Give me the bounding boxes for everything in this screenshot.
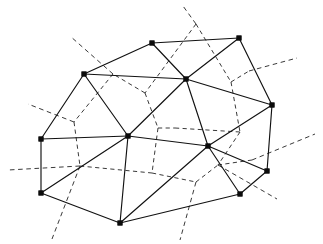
site-point: upper-left xyxy=(82,72,87,77)
delaunay-voronoi-diagram: top-left-uppertop-rightupper-leftupper-c… xyxy=(0,0,323,244)
site-point: center-hub xyxy=(126,134,131,139)
site-point: bottom-center xyxy=(118,221,123,226)
site-point: left-middle xyxy=(39,137,44,142)
site-point: right-upper xyxy=(270,103,275,108)
diagram-background xyxy=(0,0,323,244)
site-point: upper-center xyxy=(184,77,189,82)
site-point: left-lower xyxy=(39,191,44,196)
site-point: right-lower xyxy=(265,169,270,174)
site-point: right-center xyxy=(206,144,211,149)
figure-canvas: top-left-uppertop-rightupper-leftupper-c… xyxy=(0,0,323,244)
site-point: top-left-upper xyxy=(150,41,155,46)
site-point: top-right xyxy=(237,36,242,41)
site-point: bottom-right xyxy=(238,192,243,197)
